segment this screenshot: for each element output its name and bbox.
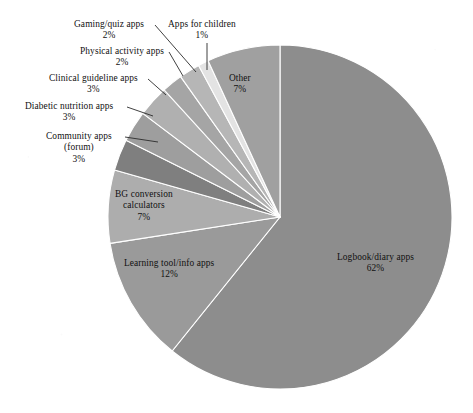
slice-label-name-apps-for-children: Apps for children <box>168 19 236 30</box>
slice-label-learning-tool-info-apps: Learning tool/info apps12% <box>124 258 214 281</box>
slice-label-percent-diabetic-nutrition-apps: 3% <box>25 112 113 123</box>
slice-label-logbook-diary-apps: Logbook/diary apps62% <box>337 252 414 275</box>
pie-chart: Logbook/diary apps62%Learning tool/info … <box>0 0 473 413</box>
slice-label-bg-conversion-calculators: BG conversioncalculators7% <box>115 189 173 223</box>
slice-label-apps-for-children: Apps for children1% <box>168 19 236 42</box>
slice-label-name2-community-apps-forum: (forum) <box>46 142 112 153</box>
slice-label-name-diabetic-nutrition-apps: Diabetic nutrition apps <box>25 101 113 112</box>
slice-label-percent-other: 7% <box>229 84 251 95</box>
slice-label-percent-bg-conversion-calculators: 7% <box>115 212 173 223</box>
slice-label-percent-community-apps-forum: 3% <box>46 154 112 165</box>
leader-line-clinical-guideline-apps <box>148 79 166 95</box>
slice-label-percent-physical-activity-apps: 2% <box>80 57 164 68</box>
slice-label-diabetic-nutrition-apps: Diabetic nutrition apps3% <box>25 101 113 124</box>
slice-label-percent-gaming-quiz-apps: 2% <box>74 30 144 41</box>
slice-label-gaming-quiz-apps: Gaming/quiz apps2% <box>74 19 144 42</box>
slice-label-name-gaming-quiz-apps: Gaming/quiz apps <box>74 19 144 30</box>
slice-label-name-logbook-diary-apps: Logbook/diary apps <box>337 252 414 263</box>
slice-label-percent-logbook-diary-apps: 62% <box>337 263 414 274</box>
slice-label-physical-activity-apps: Physical activity apps2% <box>80 46 164 69</box>
slice-label-percent-learning-tool-info-apps: 12% <box>124 269 214 280</box>
slice-label-percent-apps-for-children: 1% <box>168 30 236 41</box>
slice-label-name-physical-activity-apps: Physical activity apps <box>80 46 164 57</box>
leader-line-physical-activity-apps <box>169 52 183 76</box>
slice-label-name-other: Other <box>229 73 251 84</box>
pie-chart-canvas <box>0 0 473 413</box>
slice-label-name-clinical-guideline-apps: Clinical guideline apps <box>49 73 138 84</box>
slice-label-name-bg-conversion-calculators: BG conversion <box>115 189 173 200</box>
slice-label-other: Other7% <box>229 73 251 96</box>
slice-label-percent-clinical-guideline-apps: 3% <box>49 84 138 95</box>
slice-label-name2-bg-conversion-calculators: calculators <box>115 200 173 211</box>
slice-label-clinical-guideline-apps: Clinical guideline apps3% <box>49 73 138 96</box>
slice-label-community-apps-forum: Community apps(forum)3% <box>46 131 112 165</box>
slice-label-name-community-apps-forum: Community apps <box>46 131 112 142</box>
slice-label-name-learning-tool-info-apps: Learning tool/info apps <box>124 258 214 269</box>
